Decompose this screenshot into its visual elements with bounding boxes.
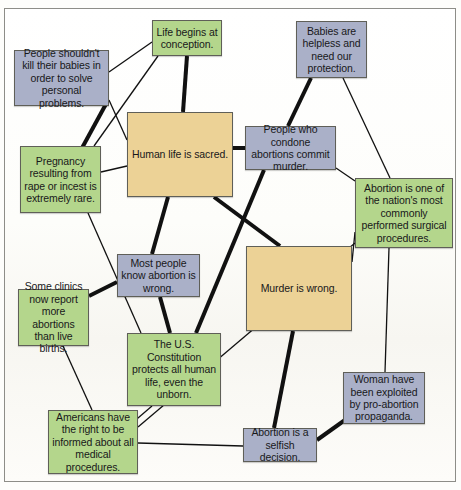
edge-condone-abortions-to-surgical-proc	[336, 168, 355, 181]
edge-babies-helpless-to-condone-abortions	[288, 78, 311, 126]
concept-map-canvas: Life begins at conception.People shouldn…	[0, 0, 461, 490]
edge-life-begins-to-people-shouldnt	[109, 42, 152, 72]
edge-pregnancy-rape-to-human-life	[101, 166, 127, 172]
node-label: Americans have the right to be informed …	[52, 411, 134, 473]
node-americans-right[interactable]: Americans have the right to be informed …	[48, 410, 138, 474]
edge-selfish-decision-to-americans-right	[138, 443, 243, 446]
edge-human-life-to-murder-wrong	[214, 197, 280, 246]
edge-selfish-decision-to-woman-exploited	[317, 420, 345, 440]
node-label: People who condone abortions commit murd…	[249, 123, 332, 173]
node-label: Abortion is a selfish decision.	[247, 426, 313, 463]
edge-life-begins-to-human-life	[183, 56, 187, 112]
node-some-clinics[interactable]: Some clinics now report more abortions t…	[18, 289, 89, 346]
node-label: The U.S. Constitution protects all human…	[131, 338, 217, 400]
node-woman-exploited[interactable]: Woman have been exploited by pro-abortio…	[343, 372, 425, 424]
node-label: People shouldn't kill their babies in or…	[18, 47, 105, 109]
edge-some-clinics-to-americans-right	[63, 346, 92, 410]
node-label: Most people know abortion is wrong.	[121, 257, 196, 294]
edge-murder-wrong-to-selfish-decision	[274, 331, 293, 428]
node-label: Life begins at conception.	[156, 26, 218, 51]
node-label: Murder is wrong.	[250, 282, 348, 294]
node-label: Pregnancy resulting from rape or incest …	[24, 155, 97, 205]
node-most-people[interactable]: Most people know abortion is wrong.	[117, 254, 200, 297]
node-selfish-decision[interactable]: Abortion is a selfish decision.	[243, 428, 317, 462]
node-label: Some clinics now report more abortions t…	[22, 280, 85, 354]
node-us-constitution[interactable]: The U.S. Constitution protects all human…	[127, 333, 221, 406]
node-babies-helpless[interactable]: Babies are helpless and need our protect…	[296, 21, 367, 78]
edge-babies-helpless-to-surgical-proc	[343, 78, 390, 178]
edge-surgical-proc-to-woman-exploited	[385, 248, 389, 372]
node-label: Woman have been exploited by pro-abortio…	[347, 373, 421, 423]
node-life-begins[interactable]: Life begins at conception.	[152, 20, 222, 56]
edge-most-people-to-some-clinics	[89, 282, 117, 296]
node-people-shouldnt[interactable]: People shouldn't kill their babies in or…	[14, 50, 109, 106]
node-murder-wrong[interactable]: Murder is wrong.	[246, 246, 352, 331]
node-surgical-proc[interactable]: Abortion is one of the nation's most com…	[355, 178, 453, 248]
node-label: Abortion is one of the nation's most com…	[359, 182, 449, 244]
node-label: Human life is sacred.	[131, 148, 229, 160]
node-label: Babies are helpless and need our protect…	[300, 25, 363, 75]
edge-people-shouldnt-to-pregnancy-rape	[82, 104, 106, 148]
node-condone-abortions[interactable]: People who condone abortions commit murd…	[245, 126, 336, 170]
edge-most-people-to-us-constitution	[160, 297, 170, 333]
node-human-life[interactable]: Human life is sacred.	[127, 112, 233, 197]
edge-human-life-to-most-people	[152, 197, 168, 254]
node-pregnancy-rape[interactable]: Pregnancy resulting from rape or incest …	[20, 146, 101, 213]
